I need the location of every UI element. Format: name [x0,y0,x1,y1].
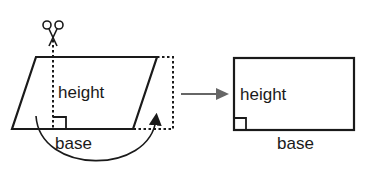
rectangle-height-label: height [240,85,287,104]
curved-arrow-icon [36,116,156,161]
right-angle-marker-left [53,117,66,129]
parallelogram-to-rectangle-diagram: height base height base [0,0,366,178]
parallelogram-height-label: height [58,83,105,102]
rectangle-base-label: base [277,134,314,153]
arrow-right-icon [181,88,229,100]
parallelogram-base-label: base [55,134,92,153]
right-angle-marker-right [234,118,246,130]
